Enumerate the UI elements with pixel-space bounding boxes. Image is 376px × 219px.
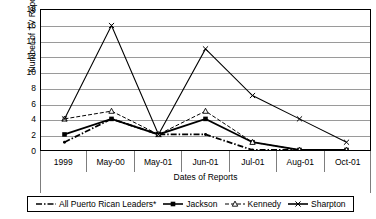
data-point-marker (250, 93, 255, 98)
chart-legend: All Puerto Rican Leaders*JacksonKennedyS… (27, 196, 354, 212)
y-tick-label: 0 (31, 147, 36, 155)
series-line (64, 26, 346, 143)
y-axis-tick-labels: 181614121086420 (16, 8, 36, 151)
data-point-marker (109, 23, 114, 28)
data-point-marker (203, 108, 208, 113)
x-axis-title: Dates of Reports (40, 172, 371, 182)
y-tick-label: 16 (27, 21, 36, 29)
y-tick-label: 6 (31, 100, 36, 108)
y-tick-label: 12 (27, 52, 36, 60)
series-lines (41, 10, 370, 150)
legend-item-label: Sharpton (311, 199, 346, 209)
data-point-marker (204, 133, 207, 136)
x-tick-label: 1999 (40, 151, 87, 172)
x-tick-label: Aug-01 (277, 151, 324, 172)
x-tick-label: May-00 (87, 151, 134, 172)
data-point-marker (203, 46, 208, 51)
y-tick-label: 4 (31, 115, 36, 123)
legend-item[interactable]: Kennedy (221, 199, 285, 209)
data-point-marker (297, 116, 302, 121)
chart-container: Number of TV Reports 181614121086420 199… (0, 0, 376, 219)
data-point-marker (109, 108, 114, 113)
legend-item-label: All Puerto Rican Leaders* (59, 199, 156, 209)
dash-dot-line-marker (35, 199, 57, 209)
legend-item[interactable]: Jackson (159, 199, 220, 209)
y-tick-label: 14 (27, 37, 36, 45)
y-tick-label: 2 (31, 131, 36, 139)
cross-line-marker (287, 199, 309, 209)
data-point-marker (203, 117, 208, 122)
square-line-marker (162, 199, 184, 209)
data-point-marker (63, 141, 66, 144)
plot-area (40, 9, 371, 151)
series-kennedy (62, 108, 349, 150)
y-tick-label: 18 (27, 5, 36, 13)
legend-item-label: Jackson (186, 199, 217, 209)
legend-item-label: Kennedy (248, 199, 282, 209)
data-point-marker (62, 132, 67, 137)
x-tick-label: Jul-01 (230, 151, 277, 172)
y-tick-label: 10 (27, 68, 36, 76)
x-axis-categories: 1999May-00May-01Jun-01Jul-01Aug-01Oct-01 (40, 151, 371, 172)
y-tick-label: 8 (31, 84, 36, 92)
x-tick-label: May-01 (135, 151, 182, 172)
x-tick-label: Oct-01 (325, 151, 371, 172)
x-tick-label: Jun-01 (182, 151, 229, 172)
data-point-marker (344, 140, 349, 145)
legend-item[interactable]: Sharpton (284, 199, 349, 209)
data-point-marker (109, 117, 114, 122)
series-sharpton (62, 23, 349, 145)
triangle-dashed-line-marker (224, 199, 246, 209)
legend-marker (171, 202, 176, 207)
legend-item[interactable]: All Puerto Rican Leaders* (32, 199, 159, 209)
